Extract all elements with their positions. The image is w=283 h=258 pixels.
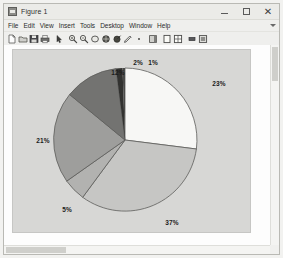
menu-item-tools[interactable]: Tools <box>80 20 95 31</box>
link-plot-icon[interactable] <box>134 34 144 44</box>
scrollbar-corner <box>270 245 279 254</box>
window-controls: ✕ <box>213 4 279 19</box>
vertical-scrollbar-thumb[interactable] <box>272 47 278 81</box>
pie-label-1: 1% <box>148 59 158 66</box>
maximize-button[interactable] <box>235 4 257 19</box>
pie-label-23: 23% <box>212 80 225 87</box>
pie-slice-23 <box>125 68 197 149</box>
title-bar: Figure 1 ✕ <box>4 4 279 20</box>
menu-item-file[interactable]: File <box>8 20 18 31</box>
open-file-icon[interactable] <box>18 34 28 44</box>
vertical-scrollbar[interactable] <box>270 45 279 245</box>
menu-item-help[interactable]: Help <box>157 20 170 31</box>
minimize-button[interactable] <box>213 4 235 19</box>
menu-item-edit[interactable]: Edit <box>23 20 34 31</box>
insert-legend-icon[interactable] <box>162 34 172 44</box>
pie-label-21: 21% <box>36 137 49 144</box>
close-button[interactable]: ✕ <box>257 4 279 19</box>
pie-label-37: 37% <box>165 219 178 226</box>
brush-icon[interactable] <box>123 34 133 44</box>
menu-item-window[interactable]: Window <box>129 20 152 31</box>
zoom-in-icon[interactable] <box>68 34 78 44</box>
print-figure-icon[interactable] <box>40 34 50 44</box>
pointer-arrow-icon[interactable] <box>54 34 64 44</box>
horizontal-scrollbar[interactable] <box>4 245 270 254</box>
pie-label-2: 2% <box>133 59 143 66</box>
menu-item-insert[interactable]: Insert <box>59 20 75 31</box>
menu-item-view[interactable]: View <box>40 20 54 31</box>
figure-client-area: 2% 1% 12% 23% 21% 5% 37% <box>4 45 279 254</box>
screenshot-root: Figure 1 ✕ File Edit View Insert Tools D… <box>0 0 283 258</box>
figure-window: Figure 1 ✕ File Edit View Insert Tools D… <box>3 3 280 255</box>
zoom-out-icon[interactable] <box>79 34 89 44</box>
window-title: Figure 1 <box>21 8 47 15</box>
rotate-3d-icon[interactable] <box>101 34 111 44</box>
save-figure-icon[interactable] <box>29 34 39 44</box>
menu-bar: File Edit View Insert Tools Desktop Wind… <box>4 20 279 32</box>
pie-chart: 2% 1% 12% 23% 21% 5% 37% <box>13 50 250 232</box>
horizontal-scrollbar-thumb[interactable] <box>6 247 66 253</box>
menu-item-desktop[interactable]: Desktop <box>100 20 124 31</box>
figure-icon <box>8 7 17 16</box>
plot-tools-on-icon[interactable] <box>187 34 197 44</box>
plot-tools-off-icon[interactable] <box>173 34 183 44</box>
data-cursor-icon[interactable] <box>112 34 122 44</box>
insert-colorbar-icon[interactable] <box>148 34 158 44</box>
pie-chart-axes: 2% 1% 12% 23% 21% 5% 37% <box>12 49 251 233</box>
pan-icon[interactable] <box>90 34 100 44</box>
property-editor-icon[interactable] <box>198 34 208 44</box>
pie-label-12: 12% <box>111 69 124 76</box>
new-figure-icon[interactable] <box>7 34 17 44</box>
chevron-down-icon[interactable] <box>270 24 276 27</box>
close-icon: ✕ <box>264 7 272 17</box>
pie-label-5: 5% <box>62 206 72 213</box>
